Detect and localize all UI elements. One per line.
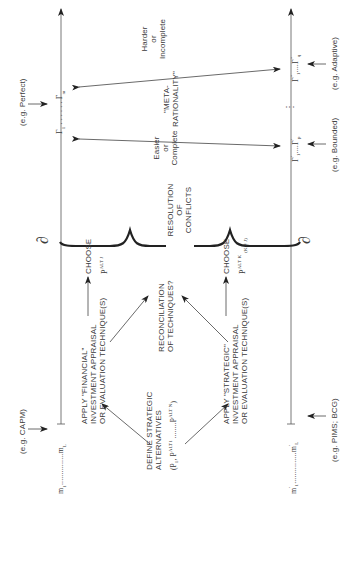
meta-line2: RATIONALITY" [171,64,180,134]
reconciliation-line2: OF TECHNIQUES? [166,281,175,353]
harder-incomplete-label: Harder or Incomplete [140,14,167,64]
gamma-adaptive-sequence: Γ″1....Γ″q [288,55,303,82]
alternatives-set: (P1, PALT1 ........PALT N) [166,392,181,470]
define-line2: ALTERNATIVES [154,392,163,470]
choose-top-symbol: PALT J [97,239,109,274]
gamma-perfect-sequence: Γ1 . . . . . . Γm [55,91,68,134]
top-track-m-sequence: m1...............mL [56,444,69,494]
example-bounded: (e.g. Bounded) [330,118,339,172]
rotated-diagram-canvas: DEFINE STRATEGIC ALTERNATIVES (P1, PALT1… [0,0,360,574]
meta-line1: "META- [162,64,171,134]
example-perfect: (e.g. Perfect) [18,78,27,126]
define-line1: DEFINE STRATEGIC [145,392,154,470]
example-pims-bcg: (e.g. PIMS; BCG) [330,398,339,462]
harder-line1: Harder [140,14,149,64]
bottom-partial-symbol: ∂ [300,236,309,244]
example-capm: (e.g. CAPM) [18,409,27,454]
resolution-line1: RESOLUTION [166,182,175,238]
gamma-vertical-dots: ⋮ [285,102,294,112]
define-alternatives-node: DEFINE STRATEGIC ALTERNATIVES (P1, PALT1… [145,392,181,470]
strategic-line3: OR EVALUATION TECHNIQUE(S) [240,298,249,424]
strategic-appraisal-node: APPLY "STRATEGIC" INVESTMENT APPRAISAL O… [222,298,249,424]
resolution-line2: OF [175,182,184,238]
financial-appraisal-node: APPLY "FINANCIAL" INVESTMENT APPRAISAL O… [80,298,107,424]
example-adaptive: (e.g. Adaptive) [330,37,339,90]
financial-line3: OR EVALUATION TECHNIQUE(S) [98,298,107,424]
meta-rationality-label: "META- RATIONALITY" [162,64,180,134]
harder-line2: or [149,14,158,64]
reconciliation-line1: RECONCILIATION [157,281,166,353]
choose-alt-j-node: CHOOSE PALT J [84,239,109,274]
resolution-line3: CONFLICTS [184,182,193,238]
harder-line3: Incomplete [158,14,167,64]
choose-bottom-symbol: PALT K (K ≠ J) [235,238,250,274]
choose-top-label: CHOOSE [84,239,93,274]
resolution-of-conflicts: RESOLUTION OF CONFLICTS [166,182,193,238]
strategic-line1: APPLY "STRATEGIC" [222,298,231,424]
reconciliation-node: RECONCILIATION OF TECHNIQUES? [157,281,175,353]
bottom-track-m-sequence: m′1...............m′L [286,442,301,494]
easier-line1: Easier [152,126,161,170]
choose-bottom-label: CHOOSE [222,238,231,274]
connector-lines [0,0,360,574]
strategic-line2: INVESTMENT APPRAISAL [231,298,240,424]
choose-alt-k-node: CHOOSE PALT K (K ≠ J) [222,238,250,274]
financial-line2: INVESTMENT APPRAISAL [89,298,98,424]
top-partial-symbol: ∂ [38,236,47,244]
financial-line1: APPLY "FINANCIAL" [80,298,89,424]
gamma-bounded-sequence: Γ′1....Γ′p [288,137,303,163]
